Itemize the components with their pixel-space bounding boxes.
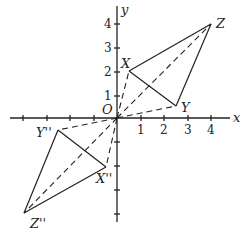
y-tick-4: 4	[104, 17, 112, 31]
point-y2-label: Y''	[36, 125, 52, 140]
x-tick-1: 1	[137, 123, 145, 137]
y-tick-3: 3	[104, 41, 112, 55]
y-axis-label: y	[120, 2, 129, 17]
point-z2-label: Z''	[29, 216, 46, 231]
y-tick-1: 1	[104, 89, 112, 103]
coordinate-diagram: x y O 1 2 3 4 1 2 3 4 X Y Z X'' Y'' Z''	[0, 0, 243, 238]
x-axis-label: x	[233, 110, 241, 125]
x-tick-3: 3	[184, 123, 192, 137]
x-tick-2: 2	[160, 123, 168, 137]
origin-label: O	[102, 102, 113, 117]
point-y-label: Y	[181, 100, 191, 115]
diagram-svg: x y O 1 2 3 4 1 2 3 4 X Y Z X'' Y'' Z''	[0, 0, 243, 238]
x-tick-4: 4	[207, 123, 215, 137]
y-tick-2: 2	[104, 65, 112, 79]
point-z-label: Z	[215, 16, 226, 31]
point-x2-label: X''	[95, 171, 112, 186]
point-x-label: X	[120, 56, 131, 71]
dashed-lines-upper	[117, 24, 211, 118]
